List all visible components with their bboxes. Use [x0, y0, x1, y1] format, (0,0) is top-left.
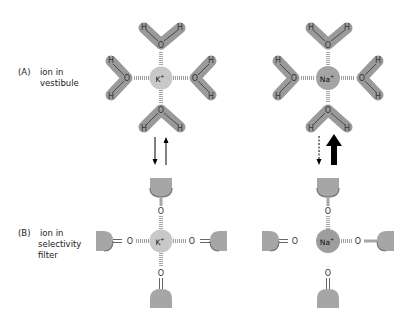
na-ion: Na+ — [316, 66, 340, 90]
na-selectivity-filter: O O O O Na+ — [262, 178, 394, 308]
svg-text:O: O — [355, 237, 361, 246]
water-molecule: H H O — [141, 23, 183, 50]
carbonyl-group: O — [96, 231, 133, 251]
svg-text:H: H — [141, 23, 147, 32]
na-equilibrium-arrows — [317, 134, 343, 165]
svg-text:H: H — [141, 124, 147, 133]
svg-text:H: H — [108, 56, 114, 65]
svg-text:O: O — [325, 106, 331, 115]
svg-text:O: O — [325, 269, 331, 278]
svg-text:H: H — [208, 92, 214, 101]
svg-text:H: H — [177, 23, 183, 32]
row-b-letter: (B) — [18, 228, 30, 238]
row-a-line1: ion in — [40, 67, 63, 77]
svg-text:O: O — [292, 237, 298, 246]
svg-text:O: O — [158, 207, 164, 216]
svg-text:H: H — [208, 56, 214, 65]
svg-text:O: O — [158, 269, 164, 278]
svg-text:H: H — [308, 124, 314, 133]
svg-text:O: O — [127, 237, 133, 246]
row-a-label: (A) ion in vestibule — [18, 67, 79, 88]
k-ion: K+ — [150, 67, 173, 90]
row-b-line1: ion in — [40, 228, 63, 238]
svg-text:O: O — [359, 74, 365, 83]
carbonyl-group: O — [355, 231, 394, 251]
svg-text:O: O — [291, 74, 297, 83]
svg-text:H: H — [275, 92, 281, 101]
svg-text:H: H — [308, 23, 314, 32]
svg-text:H: H — [375, 56, 381, 65]
svg-text:O: O — [325, 41, 331, 50]
water-molecule: H H O — [308, 23, 350, 50]
na-ion: Na+ — [316, 229, 340, 253]
svg-text:O: O — [189, 237, 195, 246]
carbonyl-group: O — [262, 231, 298, 251]
svg-text:H: H — [344, 23, 350, 32]
svg-text:O: O — [325, 207, 331, 216]
water-molecule: H H O — [192, 56, 214, 101]
svg-text:H: H — [108, 92, 114, 101]
carbonyl-group: O — [150, 269, 172, 309]
carbonyl-group: O — [150, 178, 172, 216]
svg-text:O: O — [192, 74, 198, 83]
water-molecule: H H O — [141, 106, 183, 133]
ion-selectivity-diagram: (A) ion in vestibule (B) ion in selectiv… — [0, 0, 416, 321]
water-molecule: H H O — [308, 106, 350, 133]
row-a-letter: (A) — [18, 67, 30, 77]
svg-text:O: O — [158, 41, 164, 50]
svg-text:H: H — [344, 124, 350, 133]
carbonyl-group: O — [317, 269, 339, 309]
water-molecule: H H O — [275, 56, 297, 101]
svg-text:H: H — [177, 124, 183, 133]
k-equilibrium-arrows — [153, 137, 169, 165]
k-ion: K+ — [150, 230, 173, 253]
svg-text:O: O — [124, 74, 130, 83]
svg-text:O: O — [158, 106, 164, 115]
thick-arrow-up-icon — [326, 134, 342, 165]
carbonyl-group: O — [317, 178, 339, 216]
svg-text:H: H — [375, 92, 381, 101]
row-a-line2: vestibule — [40, 78, 79, 88]
na-hydrated-complex: H H O H H O H H O H H O — [275, 23, 381, 133]
row-b-label: (B) ion in selectivity filter — [18, 228, 81, 260]
row-b-line3: filter — [38, 250, 58, 260]
carbonyl-group: O — [189, 231, 227, 251]
water-molecule: H H O — [108, 56, 130, 101]
k-selectivity-filter: O O O O K+ — [96, 178, 227, 308]
svg-text:H: H — [275, 56, 281, 65]
row-b-line2: selectivity — [38, 239, 81, 249]
k-hydrated-complex: H H O H H O H H O H H O — [108, 23, 214, 133]
water-molecule: H H O — [359, 56, 381, 101]
